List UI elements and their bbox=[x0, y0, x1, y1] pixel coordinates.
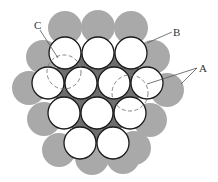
inner-wire bbox=[48, 97, 80, 129]
label-a: A bbox=[199, 63, 207, 74]
inner-wire bbox=[32, 67, 64, 99]
wire-strand-cross-section-diagram bbox=[0, 0, 218, 182]
inner-wire bbox=[49, 37, 81, 69]
inner-wire bbox=[82, 37, 114, 69]
inner-wire bbox=[115, 37, 147, 69]
label-b: B bbox=[173, 27, 180, 38]
inner-wire bbox=[81, 97, 113, 129]
inner-wire bbox=[98, 67, 130, 99]
inner-wire bbox=[131, 67, 163, 99]
inner-wire bbox=[97, 127, 129, 159]
inner-wire bbox=[114, 97, 146, 129]
inner-wire bbox=[64, 127, 96, 159]
label-c: C bbox=[34, 20, 41, 31]
